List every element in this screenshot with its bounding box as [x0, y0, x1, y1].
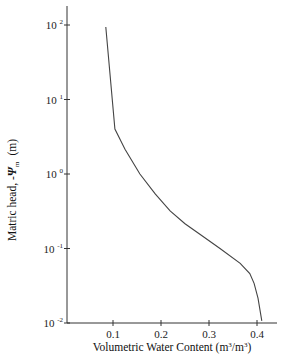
axes [67, 6, 277, 323]
y-tick-label: 10 -2 [43, 316, 63, 329]
retention-curve-line [106, 27, 262, 321]
y-tick-label: 10 0 [46, 167, 64, 180]
water-retention-chart: 0.10.20.30.4 10 210 110 010 -110 -2 Volu… [0, 0, 282, 364]
x-tick-label: 0.4 [250, 328, 264, 340]
y-tick-label: 10 1 [46, 93, 64, 106]
y-ticks: 10 210 110 010 -110 -2 [43, 18, 70, 329]
y-axis-label: Matric head, -Ψm(m) [6, 139, 21, 241]
x-tick-label: 0.3 [202, 328, 216, 340]
x-axis-label: Volumetric Water Content (m3/m3) [93, 341, 252, 354]
y-tick-label: 10 -1 [43, 242, 63, 255]
x-tick-label: 0.2 [154, 328, 168, 340]
y-tick-label: 10 2 [46, 18, 64, 31]
x-tick-label: 0.1 [106, 328, 120, 340]
